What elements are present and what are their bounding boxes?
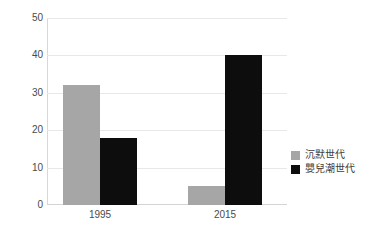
legend-label-boomer: 嬰兒潮世代 [305,164,355,174]
y-tick-label: 40 [3,50,43,60]
y-tick-label: 10 [3,163,43,173]
legend-item-silent: 沉默世代 [291,150,355,160]
x-tick-label-1995: 1995 [89,210,111,220]
plot-area [47,18,287,205]
bar-chart: 50 40 30 20 10 0 1995 2015 沉默世代 嬰兒潮世代 [0,0,379,236]
y-axis: 50 40 30 20 10 0 [0,18,43,205]
y-tick-label: 0 [3,200,43,210]
y-tick-label: 30 [3,88,43,98]
legend-item-boomer: 嬰兒潮世代 [291,164,355,174]
bar-silent-2015 [188,186,225,205]
x-tick-label-2015: 2015 [214,210,236,220]
bar-silent-1995 [63,85,100,205]
silent-swatch-icon [291,151,300,160]
boomer-swatch-icon [291,165,300,174]
chart-legend: 沉默世代 嬰兒潮世代 [291,150,355,174]
legend-label-silent: 沉默世代 [305,150,345,160]
y-tick-label: 50 [3,13,43,23]
gridline [47,18,287,19]
y-tick-label: 20 [3,125,43,135]
bar-boomer-2015 [225,55,262,205]
bar-boomer-1995 [100,138,137,205]
